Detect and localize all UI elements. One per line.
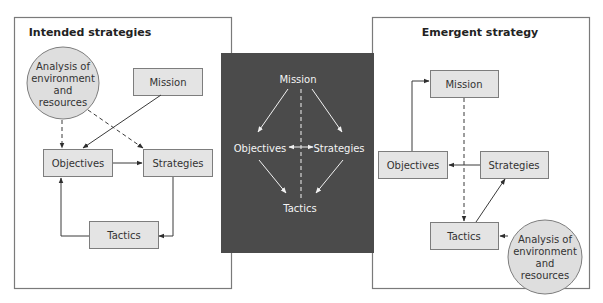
svg-text:Objectives: Objectives: [52, 158, 105, 169]
objectives-box: Objectives: [379, 152, 448, 179]
svg-text:Objectives: Objectives: [387, 160, 440, 171]
svg-text:resources: resources: [39, 97, 87, 108]
svg-text:and: and: [54, 85, 73, 96]
svg-text:Tactics: Tactics: [446, 231, 481, 242]
svg-text:Tactics: Tactics: [106, 230, 141, 241]
svg-text:Analysis of: Analysis of: [518, 234, 572, 245]
svg-text:Strategies: Strategies: [152, 158, 203, 169]
svg-text:and: and: [536, 258, 555, 269]
panel-title: Emergent strategy: [422, 26, 539, 39]
svg-text:Analysis of: Analysis of: [36, 61, 90, 72]
comparison-panel: Mission Objectives Strategies Tactics: [221, 53, 374, 253]
analysis-circle: Analysis of environment and resources: [27, 47, 99, 119]
svg-text:environment: environment: [31, 73, 95, 84]
objectives-box: Objectives: [44, 150, 113, 177]
center-strategies: Strategies: [313, 143, 364, 154]
svg-text:Mission: Mission: [445, 79, 482, 90]
svg-text:Mission: Mission: [149, 77, 186, 88]
svg-text:resources: resources: [521, 270, 569, 281]
emergent-strategy-panel: Emergent strategy Mission Objectives Str…: [373, 18, 590, 295]
analysis-circle: Analysis of environment and resources: [508, 220, 582, 294]
strategies-box: Strategies: [144, 150, 213, 177]
tactics-box: Tactics: [431, 223, 499, 250]
center-objectives: Objectives: [234, 143, 287, 154]
svg-text:environment: environment: [513, 246, 577, 257]
center-mission: Mission: [279, 74, 316, 85]
svg-text:Strategies: Strategies: [488, 160, 539, 171]
strategies-box: Strategies: [481, 152, 549, 179]
tactics-box: Tactics: [90, 222, 159, 249]
mission-box: Mission: [431, 71, 499, 98]
center-tactics: Tactics: [282, 203, 317, 214]
mission-box: Mission: [134, 69, 203, 96]
strategy-diagram: Intended strategies Analysis of environm…: [0, 0, 603, 303]
panel-title: Intended strategies: [29, 26, 152, 39]
intended-strategies-panel: Intended strategies Analysis of environm…: [15, 18, 232, 289]
